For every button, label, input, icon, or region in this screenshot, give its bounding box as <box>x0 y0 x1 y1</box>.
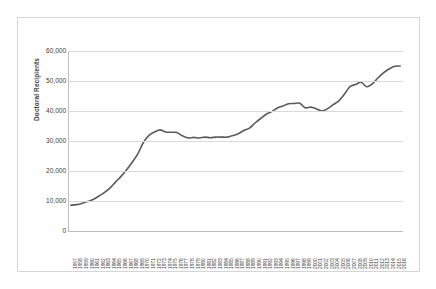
gridline <box>68 111 403 112</box>
y-axis-tick-label: 30,000 <box>22 137 66 145</box>
gridline <box>68 171 403 172</box>
gridline <box>68 51 403 52</box>
y-axis-tick-label: 40,000 <box>22 107 66 115</box>
gridline <box>68 201 403 202</box>
plot-area <box>68 51 403 231</box>
gridline <box>68 81 403 82</box>
y-axis-tick-label: 0 <box>22 227 66 235</box>
series-line-path <box>71 66 400 205</box>
chart-figure: Doctoral Recipients 010,00020,00030,0004… <box>0 0 436 289</box>
x-axis-tick-label: 2016 <box>402 258 407 269</box>
gridline <box>68 231 403 232</box>
y-axis-tick-labels: 010,00020,00030,00040,00050,00060,000 <box>22 51 66 231</box>
y-axis-tick-label: 20,000 <box>22 167 66 175</box>
y-axis-tick-label: 50,000 <box>22 77 66 85</box>
gridline <box>68 141 403 142</box>
x-axis-tick-labels: 1957195819591960196119621963196419651966… <box>68 233 403 271</box>
y-axis-tick-label: 60,000 <box>22 47 66 55</box>
y-axis-tick-label: 10,000 <box>22 197 66 205</box>
